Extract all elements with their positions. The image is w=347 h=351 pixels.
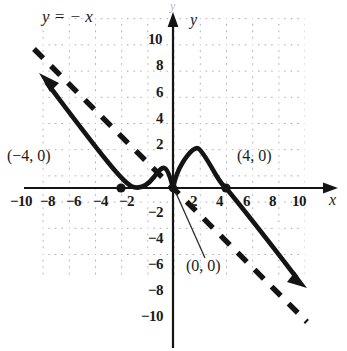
label-origin: (0, 0) [186, 258, 221, 274]
equation-label: y = − x [42, 8, 93, 25]
graph-figure: y y = − x y x 10 8 6 4 2 −2 −4 −6 −8 −10… [0, 0, 347, 351]
x-tick-minus-6: −6 [66, 194, 81, 209]
y-axis-letter: y [190, 12, 197, 28]
x-tick-4: 4 [216, 194, 223, 209]
x-tick-minus-10: −10 [10, 194, 32, 209]
y-tick-minus-6: −6 [148, 257, 163, 272]
y-tick-4: 4 [156, 111, 163, 126]
point-left-root [116, 183, 125, 192]
x-axis-letter: x [329, 192, 336, 208]
x-tick-10: 10 [292, 194, 306, 209]
y-tick-10: 10 [148, 32, 162, 47]
x-tick-minus-2: −2 [119, 194, 134, 209]
y-tick-minus-8: −8 [148, 283, 163, 298]
x-tick-2: 2 [190, 194, 197, 209]
point-right-root [221, 183, 230, 192]
label-right-root: (4, 0) [237, 148, 272, 164]
y-tick-minus-4: −4 [148, 231, 163, 246]
clipped-top-artifact: y [170, 0, 175, 14]
y-tick-2: 2 [156, 137, 163, 152]
y-tick-minus-10: −10 [141, 309, 163, 324]
y-tick-8: 8 [156, 58, 163, 73]
x-tick-6: 6 [243, 194, 250, 209]
point-origin [169, 184, 177, 192]
graph-canvas [0, 0, 347, 351]
y-tick-minus-2: −2 [148, 205, 163, 220]
label-left-root: (−4, 0) [7, 148, 51, 164]
x-tick-8: 8 [269, 194, 276, 209]
x-tick-minus-8: −8 [40, 194, 55, 209]
y-tick-6: 6 [156, 85, 163, 100]
x-tick-minus-4: −4 [93, 194, 108, 209]
